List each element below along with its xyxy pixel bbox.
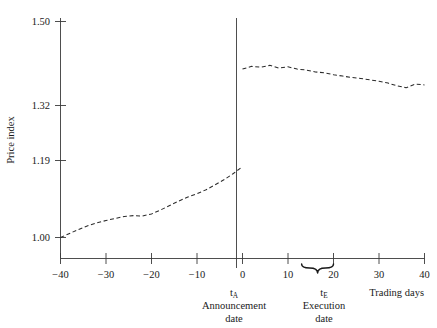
x-tick-label-10: 10 xyxy=(283,269,294,280)
y-axis-title: Price index xyxy=(5,115,16,163)
announcement-line-1: Announcement xyxy=(202,300,266,311)
y-tick-label-1-19: 1.19 xyxy=(32,155,50,166)
x-tick-label-40: 40 xyxy=(419,269,430,280)
x-tick-label-minus-40: −40 xyxy=(52,269,68,280)
x-tick-label-minus-30: −30 xyxy=(98,269,114,280)
svg-text:tA: tA xyxy=(230,287,239,300)
execution-line-2: date xyxy=(315,313,333,324)
price-index-chart-figure: 1.50 1.32 1.19 1.00 −40 −30 −20 −10 0 10… xyxy=(0,0,437,328)
svg-text:tE: tE xyxy=(320,287,328,300)
announcement-annotation: tA Announcement date xyxy=(202,287,266,324)
x-tick-label-30: 30 xyxy=(374,269,385,280)
x-tick-label-minus-20: −20 xyxy=(143,269,159,280)
announcement-line-2: date xyxy=(225,313,243,324)
chart-canvas: 1.50 1.32 1.19 1.00 −40 −30 −20 −10 0 10… xyxy=(0,0,437,328)
y-tick-label-1-00: 1.00 xyxy=(32,232,50,243)
execution-annotation: tE Execution date xyxy=(303,287,346,324)
series-line-post-announcement xyxy=(243,65,425,87)
x-tick-label-minus-10: −10 xyxy=(189,269,205,280)
y-tick-label-1-50: 1.50 xyxy=(32,16,50,27)
x-axis-title: Trading days xyxy=(369,287,424,298)
series-line-pre-announcement xyxy=(61,167,243,238)
execution-line-1: Execution xyxy=(303,300,346,311)
y-tick-label-1-32: 1.32 xyxy=(32,100,50,111)
x-tick-label-0: 0 xyxy=(240,269,245,280)
x-tick-label-20: 20 xyxy=(328,269,339,280)
